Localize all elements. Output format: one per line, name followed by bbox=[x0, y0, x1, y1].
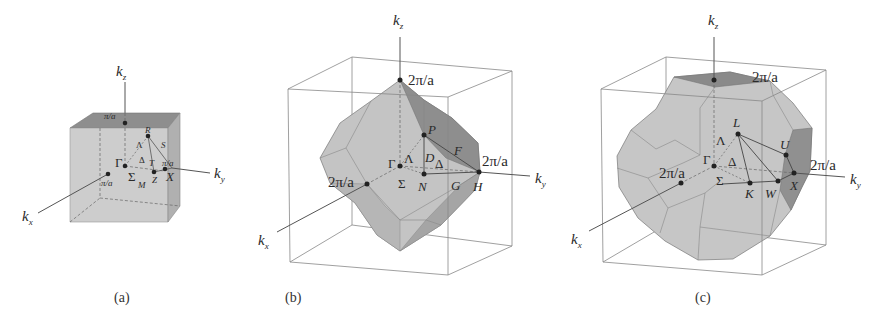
label-S: S bbox=[161, 140, 166, 150]
boundary-top-label: 2π/a bbox=[408, 72, 434, 88]
boundary-y-label: 2π/a bbox=[810, 157, 836, 173]
kx-label: kx bbox=[571, 231, 582, 250]
point-X bbox=[792, 171, 797, 176]
boundary-y-label: 2π/a bbox=[482, 153, 508, 169]
caption-a: (a) bbox=[114, 290, 130, 306]
kz-label: kz bbox=[708, 12, 719, 31]
boundary-x-label: π/a bbox=[101, 178, 113, 188]
panel-a: kz ky kx π/a π/a π/a R Λ S Γ Δ T Σ M Z X… bbox=[22, 63, 225, 306]
point-top bbox=[398, 78, 403, 83]
boundary-y-label: π/a bbox=[162, 158, 174, 168]
kz-label: kz bbox=[116, 63, 127, 82]
label-N: N bbox=[417, 179, 428, 194]
point-K bbox=[748, 181, 753, 186]
caption-c: (c) bbox=[695, 290, 711, 306]
kz-label: kz bbox=[393, 12, 404, 31]
panel-c: kz ky kx 2π/a 2π/a 2π/a L Λ U Γ Δ Σ K W … bbox=[571, 12, 861, 306]
label-X: X bbox=[789, 178, 799, 193]
point-H bbox=[477, 170, 482, 175]
label-Lambda: Λ bbox=[716, 133, 726, 148]
point-N bbox=[422, 172, 427, 177]
label-U: U bbox=[780, 137, 791, 152]
label-L: L bbox=[732, 115, 740, 130]
point-L bbox=[736, 132, 741, 137]
label-Sigma: Σ bbox=[128, 169, 136, 184]
label-Gamma: Γ bbox=[388, 156, 396, 171]
label-X: X bbox=[165, 169, 175, 184]
point-x-boundary bbox=[365, 182, 370, 187]
point-Gamma bbox=[398, 164, 403, 169]
label-F: F bbox=[453, 143, 463, 158]
point-top bbox=[123, 121, 128, 126]
label-R: R bbox=[144, 125, 151, 135]
kx-label: kx bbox=[22, 208, 33, 227]
label-G: G bbox=[451, 178, 461, 193]
label-M: M bbox=[137, 180, 146, 190]
ky-label: ky bbox=[535, 170, 546, 189]
label-W: W bbox=[765, 186, 777, 201]
label-K: K bbox=[744, 186, 755, 201]
label-H: H bbox=[472, 179, 483, 194]
boundary-top-label: π/a bbox=[104, 111, 116, 121]
kx-label: kx bbox=[258, 232, 269, 251]
boundary-x-label: 2π/a bbox=[659, 165, 685, 181]
point-M bbox=[152, 170, 157, 175]
label-Delta: Δ bbox=[139, 155, 145, 165]
point-W bbox=[776, 179, 781, 184]
point-Gamma bbox=[123, 164, 128, 169]
point-x-boundary bbox=[679, 181, 684, 186]
panel-b: kz ky kx 2π/a 2π/a 2π/a P Γ Λ D Δ F Σ N … bbox=[258, 12, 546, 306]
point-U bbox=[784, 153, 789, 158]
ky-label: ky bbox=[214, 165, 225, 184]
point-P bbox=[422, 133, 427, 138]
label-Delta: Δ bbox=[435, 156, 443, 171]
point-x-boundary bbox=[106, 172, 111, 177]
ky-axis bbox=[479, 172, 530, 176]
boundary-top-label: 2π/a bbox=[752, 69, 778, 85]
ky-label: ky bbox=[850, 171, 861, 190]
label-D: D bbox=[424, 150, 435, 165]
boundary-x-label: 2π/a bbox=[328, 174, 354, 190]
label-Gamma: Γ bbox=[703, 152, 711, 167]
caption-b: (b) bbox=[285, 290, 302, 306]
point-Gamma bbox=[712, 164, 717, 169]
label-Lambda: Λ bbox=[404, 151, 414, 166]
label-Lambda: Λ bbox=[136, 140, 143, 150]
label-Sigma: Σ bbox=[716, 173, 724, 188]
label-Delta: Δ bbox=[728, 154, 736, 169]
brillouin-zones-figure: kz ky kx π/a π/a π/a R Λ S Γ Δ T Σ M Z X… bbox=[0, 0, 884, 326]
label-Sigma: Σ bbox=[398, 176, 406, 191]
point-top bbox=[712, 78, 717, 83]
label-P: P bbox=[427, 122, 436, 137]
label-Gamma: Γ bbox=[115, 155, 123, 170]
